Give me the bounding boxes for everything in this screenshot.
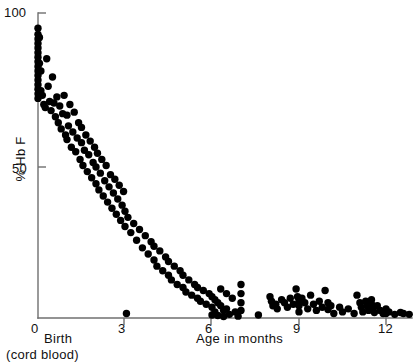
data-point bbox=[179, 272, 186, 279]
data-point bbox=[117, 217, 124, 224]
data-point bbox=[84, 168, 91, 175]
data-point bbox=[56, 102, 63, 109]
data-point bbox=[98, 156, 105, 163]
data-point bbox=[63, 136, 70, 143]
data-point bbox=[108, 205, 115, 212]
x-axis-tick-label-12: 12 bbox=[378, 321, 393, 336]
origin-caption-birth: Birth bbox=[44, 331, 72, 346]
data-point bbox=[350, 310, 357, 317]
data-point bbox=[37, 67, 44, 74]
data-point bbox=[85, 151, 92, 158]
data-point bbox=[72, 148, 79, 155]
data-point bbox=[63, 111, 70, 118]
data-point bbox=[78, 124, 85, 131]
y-axis-title-wrapper: % Hb F bbox=[11, 119, 29, 199]
data-point bbox=[217, 285, 224, 292]
data-point bbox=[36, 60, 43, 67]
origin-caption-cord-blood: (cord blood) bbox=[6, 347, 79, 362]
data-point bbox=[100, 192, 107, 199]
data-point bbox=[111, 176, 118, 183]
data-point bbox=[113, 211, 120, 218]
x-axis-tick-label-3: 3 bbox=[118, 321, 125, 336]
data-point bbox=[110, 189, 117, 196]
data-point bbox=[121, 223, 128, 230]
data-point bbox=[105, 183, 112, 190]
data-point bbox=[104, 198, 111, 205]
data-point bbox=[185, 276, 192, 283]
data-point bbox=[60, 92, 67, 99]
data-point bbox=[124, 214, 131, 221]
data-point bbox=[44, 83, 51, 90]
data-point bbox=[237, 281, 244, 288]
data-point bbox=[39, 92, 46, 99]
data-point bbox=[69, 128, 76, 135]
data-point bbox=[330, 310, 337, 317]
data-point bbox=[171, 262, 178, 269]
data-point bbox=[49, 73, 56, 80]
data-point bbox=[353, 291, 360, 298]
data-points-layer bbox=[34, 25, 413, 321]
data-point bbox=[159, 267, 166, 274]
y-axis-title: % Hb F bbox=[13, 136, 28, 181]
data-point bbox=[345, 305, 352, 312]
data-point bbox=[71, 108, 78, 115]
data-point bbox=[321, 287, 328, 294]
data-point bbox=[127, 229, 134, 236]
data-point bbox=[237, 299, 244, 306]
data-point bbox=[139, 244, 146, 251]
data-point bbox=[237, 290, 244, 297]
data-point bbox=[43, 55, 50, 62]
data-point bbox=[47, 107, 54, 114]
data-point bbox=[102, 162, 109, 169]
data-point bbox=[97, 169, 104, 176]
data-point bbox=[237, 307, 244, 314]
data-point bbox=[327, 302, 334, 309]
data-point bbox=[95, 186, 102, 193]
data-point bbox=[130, 220, 137, 227]
data-point bbox=[274, 305, 281, 312]
data-point bbox=[168, 276, 175, 283]
data-point bbox=[53, 93, 60, 100]
data-point bbox=[92, 163, 99, 170]
data-point bbox=[120, 188, 127, 195]
data-point bbox=[78, 139, 85, 146]
data-point bbox=[87, 137, 94, 144]
x-axis-title: Age in months bbox=[196, 331, 283, 346]
x-axis-tick-label-0: 0 bbox=[31, 321, 38, 336]
scatter-plot-figure: 100 50 0 3 6 9 12 % Hb F Age in months B… bbox=[0, 0, 419, 362]
data-point bbox=[150, 243, 157, 250]
data-point bbox=[255, 311, 262, 318]
data-point bbox=[79, 162, 86, 169]
data-point bbox=[142, 232, 149, 239]
data-point bbox=[114, 195, 121, 202]
data-point bbox=[36, 34, 43, 41]
data-point bbox=[65, 122, 72, 129]
data-point bbox=[304, 305, 311, 312]
data-point bbox=[133, 237, 140, 244]
data-point bbox=[82, 131, 89, 138]
y-axis-tick-label-100: 100 bbox=[4, 5, 26, 20]
data-point bbox=[116, 182, 123, 189]
data-point bbox=[406, 311, 413, 318]
data-point bbox=[66, 101, 73, 108]
data-point bbox=[58, 125, 65, 132]
plot-canvas bbox=[0, 0, 419, 362]
data-point bbox=[295, 308, 302, 315]
data-point bbox=[307, 291, 314, 298]
data-point bbox=[229, 294, 236, 301]
data-point bbox=[123, 310, 130, 317]
data-point bbox=[223, 290, 230, 297]
x-axis-tick-label-9: 9 bbox=[293, 321, 300, 336]
data-point bbox=[292, 285, 299, 292]
data-point bbox=[145, 250, 152, 257]
data-point bbox=[94, 150, 101, 157]
data-point bbox=[153, 262, 160, 269]
data-point bbox=[101, 177, 108, 184]
data-point bbox=[136, 226, 143, 233]
data-point bbox=[165, 258, 172, 265]
data-point bbox=[88, 174, 95, 181]
data-point bbox=[156, 247, 163, 254]
